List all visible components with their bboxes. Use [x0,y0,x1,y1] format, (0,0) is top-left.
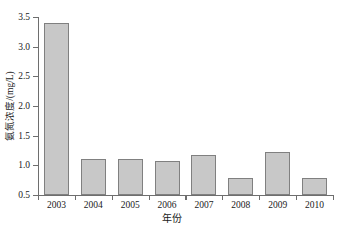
bar [265,152,290,195]
y-axis-tick-label: 1.0 [4,160,30,170]
y-axis-tick-label: 2.5 [4,71,30,81]
bar [302,178,327,195]
bar [191,155,216,195]
bar [118,159,143,195]
x-axis-title: 年份 [0,213,343,225]
x-axis-tick-label: 2010 [293,199,337,211]
plot-area [38,17,333,195]
y-axis-tick-label: 1.5 [4,131,30,141]
bar [44,23,69,195]
y-axis-tick-label: 3.5 [4,12,30,22]
y-axis-tick-label: 0.5 [4,190,30,200]
bar-chart-figure: 氨氮浓度/(mg/L) 0.51.01.52.02.53.03.5 200320… [0,0,343,236]
bar [155,161,180,195]
y-axis-tick-label: 2.0 [4,101,30,111]
bar [81,159,106,195]
bar [228,178,253,195]
y-axis-tick-label: 3.0 [4,42,30,52]
